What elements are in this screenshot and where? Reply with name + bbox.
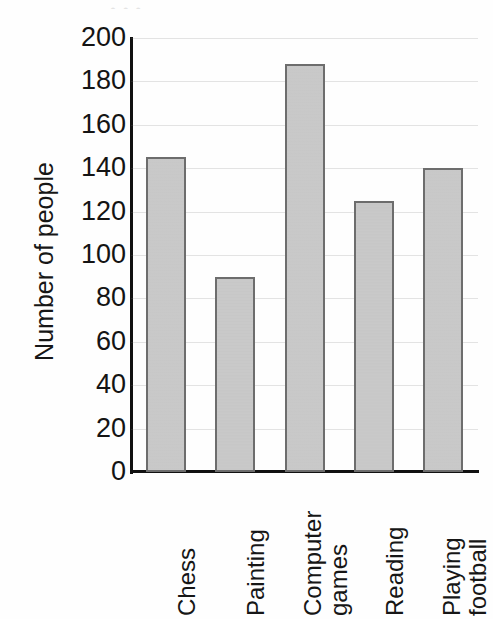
y-axis-tick-label: 40 xyxy=(40,371,126,398)
y-axis-tick-label: 140 xyxy=(40,154,126,181)
x-axis-category-label-text: Reading xyxy=(382,527,408,616)
y-axis-tick-label: 100 xyxy=(40,241,126,268)
bar-chart-figure: • • • Number of people 20018016014012010… xyxy=(0,0,493,619)
x-axis-category-label-text: Playingfootball xyxy=(439,537,491,616)
x-axis-category-label-line: Computer xyxy=(300,511,326,616)
bar xyxy=(354,201,394,472)
x-axis-category-label-line: games xyxy=(326,511,352,616)
bar xyxy=(146,157,186,472)
plot-area xyxy=(131,38,478,472)
y-axis-tick-label: 120 xyxy=(40,198,126,225)
y-axis-tick-label: 200 xyxy=(40,24,126,51)
x-axis-category-label-line: Playing xyxy=(439,537,465,616)
cut-off-title-remnant: • • • xyxy=(110,0,485,9)
x-axis-category-label-line: football xyxy=(465,537,491,616)
y-axis-tick-label: 180 xyxy=(40,67,126,94)
x-axis-category-label-line: Reading xyxy=(382,527,408,616)
y-axis-tick-label: 60 xyxy=(40,328,126,355)
y-axis-tick-label: 0 xyxy=(40,458,126,485)
x-axis-category-label-text: Computergames xyxy=(300,511,352,616)
x-axis-category-label-text: Chess xyxy=(174,548,200,616)
y-axis-tick-label: 160 xyxy=(40,111,126,138)
x-axis-category-labels: ChessPaintingComputergamesReadingPlaying… xyxy=(131,478,478,619)
x-axis-category-label-line: Chess xyxy=(174,548,200,616)
x-axis-category-label-text: Painting xyxy=(243,529,269,616)
y-axis-tick-label: 20 xyxy=(40,415,126,442)
y-axis-tick-label: 80 xyxy=(40,284,126,311)
bar xyxy=(285,64,325,472)
bar xyxy=(423,168,463,472)
y-axis-tick-labels: 200180160140120100806040200 xyxy=(31,0,126,619)
bar xyxy=(215,277,255,472)
gridline xyxy=(131,38,478,39)
x-axis-category-label-line: Painting xyxy=(243,529,269,616)
